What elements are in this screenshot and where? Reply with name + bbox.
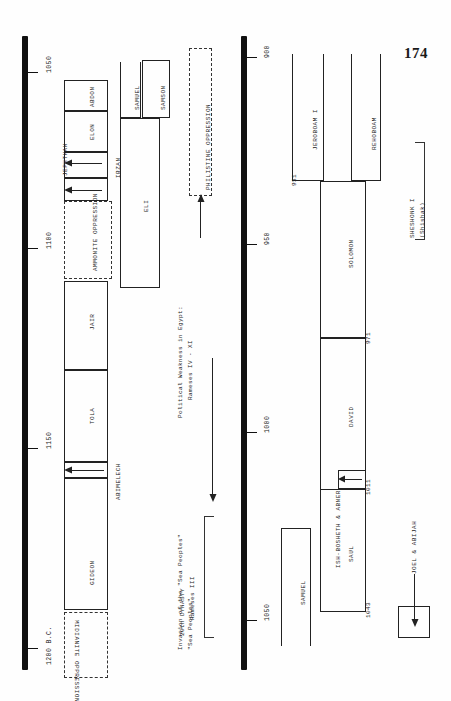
ruler-box-solomon xyxy=(320,181,366,338)
joel-abijah-stem xyxy=(414,574,415,622)
prophet-label-samuel-left: SAMUEL xyxy=(134,85,141,110)
ruler-label-solomon: SOLOMON xyxy=(348,239,355,268)
right-tick-900 xyxy=(247,57,257,58)
right-tick-label-900: 900 xyxy=(264,45,271,58)
ruler-box-saul xyxy=(320,489,366,612)
note-20th-dynasty: 20th DYNASTY xyxy=(178,588,187,636)
note-rameses-iv-xi: Rameses IV - XI xyxy=(186,340,195,400)
judge-box-abdon xyxy=(64,80,108,111)
judge-label-tola: TOLA xyxy=(89,408,96,424)
note-political-weakness: Political Weakness in Egypt: xyxy=(176,306,185,418)
note-rameses-iii: Rameses III xyxy=(188,576,197,620)
judge-label-elon: ELON xyxy=(89,124,96,140)
priest-label-eli: ELI xyxy=(143,200,150,212)
left-tick-1200 xyxy=(28,648,38,649)
chart-page: 1050 1100 1150 1200 B.C. MIDIANITE OPPRE… xyxy=(0,0,451,701)
judge-label-jair: JAIR xyxy=(89,314,96,330)
philistine-oppression-label: PHILISTINE OPPRESSION xyxy=(205,104,212,190)
ruler-box-jeroboam-i xyxy=(292,54,324,181)
date-label-1043: 1043 xyxy=(365,602,372,618)
ruler-label-saul: SAUL xyxy=(348,546,355,562)
midianite-oppression-label: MIDIANITE OPPRESSION xyxy=(73,620,80,680)
right-tick-label-1050: 1050 xyxy=(264,604,271,621)
philistine-arrow-icon xyxy=(197,194,205,204)
others-label-joel-abijah: JOEL & ABIJAH xyxy=(411,521,418,574)
ruler-label-ish-bosheth: ISH-BOSHETH & ABNER xyxy=(335,490,342,568)
jephthah-arrow-icon xyxy=(64,186,74,194)
ruler-label-rehoboam: REHOBOAM xyxy=(371,117,378,150)
judge-label-abimelech: ABIMELECH xyxy=(115,463,122,500)
right-tick-1050 xyxy=(247,620,257,621)
page-number: 174 xyxy=(404,45,428,62)
judge-label-gideon: GIDEON xyxy=(89,560,96,585)
prophet-label-samuel-right: SAMUEL xyxy=(300,580,307,605)
left-tick-label-1200: 1200 B.C. xyxy=(46,626,53,665)
date-label-1011: 1011 xyxy=(365,479,372,495)
judge-box-gideon xyxy=(64,478,108,610)
judge-box-elon xyxy=(64,111,108,152)
left-tick-label-1100: 1100 xyxy=(46,232,53,249)
right-tick-label-1000: 1000 xyxy=(264,416,271,433)
egypt-timeline-stem xyxy=(212,358,213,498)
ammonite-oppression-box xyxy=(64,201,112,279)
joel-abijah-arrow-icon xyxy=(411,618,419,627)
judge-label-samson: SAMSON xyxy=(160,85,167,110)
ruler-box-david xyxy=(320,338,366,489)
left-tick-1150 xyxy=(28,448,38,449)
left-tick-1100 xyxy=(28,248,38,249)
left-timeline-axis xyxy=(22,36,28,670)
jephthah-leader-line xyxy=(70,190,102,191)
ammonite-oppression-label-line1: AMMONITE OPPRESSION xyxy=(92,193,99,271)
ruler-label-david: DAVID xyxy=(348,406,355,427)
midianite-oppression-box xyxy=(64,612,108,678)
right-timeline-axis xyxy=(241,36,247,670)
judge-label-abdon: ABDON xyxy=(89,86,96,107)
ruler-label-jeroboam-i: JEROBOAM I xyxy=(312,109,319,150)
philistine-arrow-stem xyxy=(200,200,201,238)
abimelech-leader-line xyxy=(70,470,104,471)
left-tick-label-1050: 1050 xyxy=(46,56,53,73)
priest-box-eli xyxy=(120,118,160,288)
left-tick-1050 xyxy=(28,72,38,73)
abimelech-arrow-icon xyxy=(64,466,74,474)
egypt-timeline-arrow-icon xyxy=(209,492,217,502)
bracket-20th-dynasty xyxy=(204,516,214,638)
right-tick-label-950: 950 xyxy=(264,232,271,245)
right-tick-1000 xyxy=(247,432,257,433)
date-label-971: 971 xyxy=(365,332,372,344)
judge-box-tola xyxy=(64,370,108,462)
note-shishak: (Shishak) xyxy=(418,202,427,238)
ibzan-leader-line xyxy=(70,163,102,164)
judge-box-jair xyxy=(64,281,108,370)
right-tick-950 xyxy=(247,244,257,245)
ibzan-arrow-icon xyxy=(64,159,74,167)
note-sheshonk-i: SHESHONK I xyxy=(408,198,417,238)
left-tick-label-1150: 1150 xyxy=(46,432,53,449)
